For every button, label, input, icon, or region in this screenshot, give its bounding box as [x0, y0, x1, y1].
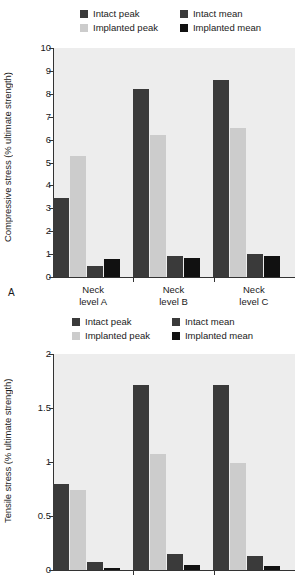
bar-implanted-mean-group-1 [104, 259, 120, 277]
legend-swatch-icon [172, 332, 180, 340]
legend-label: Intact peak [93, 8, 139, 19]
legend-swatch-icon [72, 318, 80, 326]
bar-intact-mean-group-3 [247, 556, 263, 570]
plot-area-b: Tensile stress (% ultimate strength) 00.… [0, 348, 299, 573]
plot-area-a: Compressive stress (% ultimate strength)… [0, 40, 299, 285]
plot-background-b [54, 354, 295, 570]
bar-intact-mean-group-1 [87, 562, 103, 570]
y-tick-mark [49, 231, 53, 232]
bar-intact-mean-group-1 [87, 266, 103, 277]
legend-label: Implanted mean [185, 330, 253, 341]
legend-item-intact-mean: Intact mean [172, 316, 253, 327]
legend-swatch-icon [72, 332, 80, 340]
x-group-divider [133, 277, 134, 282]
bar-implanted-peak-group-3 [230, 128, 246, 277]
bar-intact-mean-group-2 [167, 554, 183, 570]
legend-label: Implanted peak [85, 330, 150, 341]
bar-groups-b [54, 354, 295, 570]
legend-swatch-icon [180, 10, 188, 18]
legend-label: Implanted peak [93, 22, 158, 33]
x-axis-line-b [53, 570, 295, 571]
x-category-label-3: Neck level C [214, 284, 294, 307]
y-tick-mark [49, 254, 53, 255]
bar-implanted-mean-group-3 [264, 256, 280, 277]
legend-item-implanted-peak: Implanted peak [80, 22, 158, 33]
bar-intact-peak-group-3 [213, 385, 229, 570]
legend-item-implanted-peak: Implanted peak [72, 330, 150, 341]
legend-item-implanted-mean: Implanted mean [180, 22, 261, 33]
x-group-divider [133, 570, 134, 575]
bar-implanted-peak-group-3 [230, 463, 246, 570]
x-group-divider [214, 277, 215, 282]
bar-intact-peak-group-1 [53, 484, 69, 570]
legend-panel-a: Intact peak Intact mean Implanted peak I… [80, 8, 261, 33]
legend-item-intact-mean: Intact mean [180, 8, 261, 19]
y-tick-mark [49, 48, 53, 49]
x-category-label-2: Neck level B [133, 284, 213, 307]
y-tick-mark [49, 163, 53, 164]
bar-intact-peak-group-2 [133, 385, 149, 570]
legend-swatch-icon [80, 10, 88, 18]
legend-label: Intact mean [185, 316, 235, 327]
plot-background-a [54, 48, 295, 277]
chart-panel-b: Intact peak Intact mean Implanted peak I… [0, 312, 299, 575]
bar-intact-mean-group-2 [167, 256, 183, 277]
bar-implanted-peak-group-1 [70, 490, 86, 570]
y-tick-mark [49, 516, 53, 517]
y-tick-mark [49, 117, 53, 118]
legend-panel-b: Intact peak Intact mean Implanted peak I… [72, 316, 253, 341]
y-tick-mark [49, 354, 53, 355]
legend-item-intact-peak: Intact peak [80, 8, 158, 19]
chart-panel-a: Intact peak Intact mean Implanted peak I… [0, 0, 299, 312]
legend-swatch-icon [172, 318, 180, 326]
bar-implanted-peak-group-1 [70, 156, 86, 277]
panel-letter-a: A [8, 287, 15, 298]
y-tick-mark [49, 462, 53, 463]
legend-swatch-icon [80, 24, 88, 32]
y-tick-mark [49, 408, 53, 409]
bar-intact-peak-group-1 [53, 198, 69, 277]
y-tick-mark [49, 570, 53, 571]
y-tick-mark [49, 94, 53, 95]
x-axis-line-a [53, 277, 295, 278]
y-axis-ticks-b: 00.511.52 [25, 354, 51, 570]
bar-implanted-mean-group-2 [184, 258, 200, 277]
y-tick-mark [49, 208, 53, 209]
y-axis-label-a: Compressive stress (% ultimate strength) [2, 50, 16, 265]
legend-swatch-icon [180, 24, 188, 32]
bar-groups-a [54, 48, 295, 277]
legend-label: Intact mean [193, 8, 243, 19]
x-group-divider [214, 570, 215, 575]
bar-intact-mean-group-3 [247, 254, 263, 277]
legend-item-intact-peak: Intact peak [72, 316, 150, 327]
bar-intact-peak-group-3 [213, 80, 229, 277]
legend-label: Intact peak [85, 316, 131, 327]
y-axis-label-b: Tensile stress (% ultimate strength) [2, 353, 16, 548]
bar-implanted-peak-group-2 [150, 454, 166, 570]
bar-intact-peak-group-2 [133, 89, 149, 277]
y-axis-ticks-a: 012345678910 [25, 48, 51, 277]
y-tick-mark [49, 277, 53, 278]
y-tick-mark [49, 185, 53, 186]
y-tick-mark [49, 140, 53, 141]
y-tick-mark [49, 71, 53, 72]
legend-label: Implanted mean [193, 22, 261, 33]
bar-implanted-peak-group-2 [150, 135, 166, 277]
x-category-label-1: Neck level A [53, 284, 133, 307]
legend-item-implanted-mean: Implanted mean [172, 330, 253, 341]
